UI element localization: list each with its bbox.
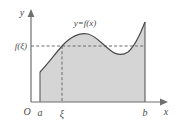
y-label-f-xi: f(ξ) — [15, 41, 27, 51]
x-label-a: a — [38, 107, 43, 118]
y-axis-label: y — [19, 7, 25, 18]
shaded-area-under-curve — [40, 22, 145, 102]
x-axis-arrow-icon — [160, 99, 168, 106]
origin-label: O — [23, 106, 30, 117]
curve-label: y=f(x) — [73, 18, 97, 28]
x-label-b: b — [143, 107, 148, 118]
x-label-xi: ξ — [60, 108, 65, 120]
x-axis-label: x — [163, 106, 169, 117]
y-axis-arrow-icon — [28, 9, 35, 17]
figure-container: y x O a ξ b f(ξ) y=f(x) — [0, 0, 182, 134]
